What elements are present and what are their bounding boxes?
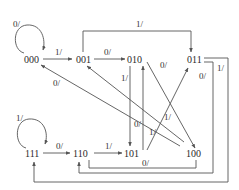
label-001-011: 1/	[136, 19, 144, 29]
label-001-010: 0/	[104, 47, 112, 57]
state-101: 101	[124, 148, 139, 159]
label-010-100: 0/	[160, 60, 168, 70]
label-100-001: 1/	[164, 112, 172, 122]
state-100: 100	[186, 148, 201, 159]
label-101-011: 1/	[149, 127, 157, 137]
state-111: 111	[25, 148, 39, 159]
edge-001-011	[83, 31, 191, 52]
state-transition-diagram: 000 001 010 011 100 101 110 111 0/ 1/ 0/…	[0, 0, 239, 190]
state-000: 000	[24, 54, 39, 65]
state-010: 010	[127, 54, 142, 65]
state-001: 001	[76, 54, 91, 65]
label-101-010: 0/	[134, 119, 142, 129]
label-011-110: 0/	[199, 71, 207, 81]
label-100-000: 0/	[53, 78, 61, 88]
edge-100-001	[87, 66, 184, 142]
edge-000-loop	[15, 25, 44, 53]
label-111-110: 0/	[56, 141, 64, 151]
state-110: 110	[73, 148, 88, 159]
label-110-100: 0/	[142, 158, 150, 168]
label-000-loop: 0/	[13, 19, 21, 29]
label-111-loop: 1/	[16, 113, 24, 123]
label-011-111: 1/	[217, 63, 225, 73]
label-110-101: 1/	[105, 141, 113, 151]
state-011: 011	[187, 54, 202, 65]
edge-111-loop	[17, 119, 46, 148]
edge-101-011	[147, 68, 188, 150]
label-010-101: 1/	[121, 73, 129, 83]
edge-100-000	[41, 65, 180, 146]
label-000-001: 1/	[55, 47, 63, 57]
